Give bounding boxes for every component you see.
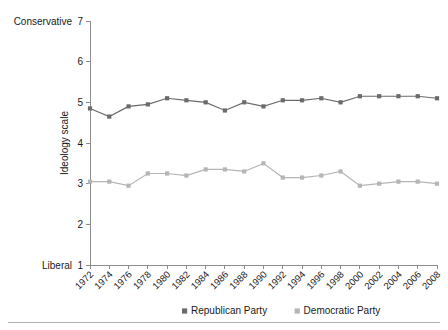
data-point-marker <box>396 94 400 98</box>
data-point-marker <box>416 94 420 98</box>
data-point-marker <box>88 180 92 184</box>
data-point-marker <box>184 173 188 177</box>
footer-divider <box>8 322 440 323</box>
data-point-marker <box>435 182 439 186</box>
series-democratic <box>88 161 439 188</box>
data-point-marker <box>319 96 323 100</box>
legend-label-republican: Republican Party <box>191 305 267 316</box>
x-tick-label: 2000 <box>343 269 366 292</box>
data-point-marker <box>435 96 439 100</box>
legend-swatch-republican <box>182 308 187 313</box>
x-tick-label: 1990 <box>246 269 269 292</box>
data-point-marker <box>107 114 111 118</box>
data-point-marker <box>165 171 169 175</box>
x-tick-label: 1992 <box>265 269 288 292</box>
y-axis-low-label: Liberal <box>42 260 72 271</box>
data-point-marker <box>358 184 362 188</box>
data-point-marker <box>204 100 208 104</box>
data-point-marker <box>165 96 169 100</box>
data-point-marker <box>146 102 150 106</box>
x-tick-label: 2008 <box>420 269 443 292</box>
data-point-marker <box>242 169 246 173</box>
data-point-marker <box>396 180 400 184</box>
x-tick-label: 1978 <box>131 269 154 292</box>
x-tick-label: 1972 <box>73 269 96 292</box>
x-tick-label: 1988 <box>227 269 250 292</box>
x-tick-label: 1982 <box>169 269 192 292</box>
x-tick-label: 2002 <box>362 269 385 292</box>
data-point-marker <box>223 108 227 112</box>
data-point-marker <box>204 167 208 171</box>
data-point-marker <box>184 98 188 102</box>
y-tick-label: 4 <box>77 138 83 149</box>
y-tick-label: 6 <box>77 56 83 67</box>
data-point-marker <box>358 94 362 98</box>
data-point-marker <box>300 98 304 102</box>
data-point-marker <box>223 167 227 171</box>
data-point-marker <box>126 104 130 108</box>
x-tick-label: 1996 <box>304 269 327 292</box>
y-tick-label: 5 <box>77 97 83 108</box>
y-axis: 1234567ConservativeLiberalIdeology scale <box>14 16 90 271</box>
x-tick-label: 2004 <box>381 269 404 292</box>
x-tick-label: 1994 <box>285 269 308 292</box>
y-tick-label: 2 <box>77 219 83 230</box>
data-point-marker <box>416 180 420 184</box>
y-axis-high-label: Conservative <box>14 16 73 27</box>
y-axis-title: Ideology scale <box>59 111 70 175</box>
chart-title <box>0 0 448 7</box>
ideology-scale-chart: 1234567ConservativeLiberalIdeology scale… <box>0 0 448 330</box>
data-point-marker <box>339 169 343 173</box>
data-point-marker <box>261 104 265 108</box>
x-tick-label: 1974 <box>92 269 115 292</box>
series-line <box>90 163 437 185</box>
data-point-marker <box>146 171 150 175</box>
data-point-marker <box>339 100 343 104</box>
series-republican <box>88 94 439 119</box>
x-axis: 1972197419761978198019821984198619881990… <box>73 265 443 291</box>
chart-legend: Republican PartyDemocratic Party <box>182 305 380 316</box>
data-point-marker <box>377 182 381 186</box>
y-tick-label: 7 <box>77 16 83 27</box>
data-point-marker <box>126 184 130 188</box>
data-point-marker <box>281 98 285 102</box>
x-tick-label: 1980 <box>150 269 173 292</box>
x-tick-label: 2006 <box>400 269 423 292</box>
data-point-marker <box>377 94 381 98</box>
data-point-marker <box>107 180 111 184</box>
x-tick-label: 1998 <box>323 269 346 292</box>
legend-swatch-democratic <box>295 308 300 313</box>
data-point-marker <box>281 175 285 179</box>
data-point-marker <box>261 161 265 165</box>
data-point-marker <box>300 175 304 179</box>
chart-canvas: 1234567ConservativeLiberalIdeology scale… <box>0 0 448 330</box>
data-point-marker <box>319 173 323 177</box>
y-tick-label: 3 <box>77 178 83 189</box>
x-tick-label: 1976 <box>111 269 134 292</box>
data-point-marker <box>88 106 92 110</box>
y-tick-label: 1 <box>77 260 83 271</box>
x-tick-label: 1984 <box>188 269 211 292</box>
x-tick-label: 1986 <box>208 269 231 292</box>
legend-label-democratic: Democratic Party <box>304 305 381 316</box>
data-point-marker <box>242 100 246 104</box>
